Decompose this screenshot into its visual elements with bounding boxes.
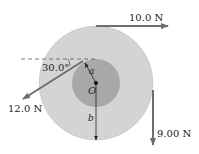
torque-diagram: 10.0 N 12.0 N 9.00 N 30.0° O a b: [0, 0, 199, 154]
force-label-10N: 10.0 N: [129, 13, 163, 23]
force-label-12N: 12.0 N: [8, 104, 42, 114]
center-label: O: [88, 86, 96, 96]
radius-a-label: a: [89, 67, 94, 76]
angle-label: 30.0°: [42, 63, 69, 73]
radius-b-label: b: [88, 114, 94, 123]
force-label-9N: 9.00 N: [157, 129, 191, 139]
